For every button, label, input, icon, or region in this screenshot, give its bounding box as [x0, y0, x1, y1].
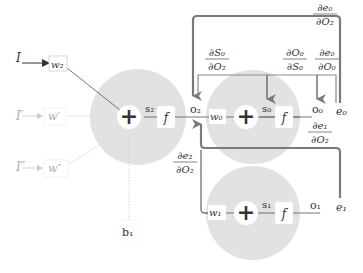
input-Idprime-label: I″	[15, 160, 26, 174]
plus-icon: +	[237, 103, 255, 129]
svg-text:∂S₀: ∂S₀	[209, 47, 225, 58]
svg-text:∂O₂: ∂O₂	[208, 61, 225, 72]
weight-w0-label: w₀	[210, 111, 223, 122]
sum-label-s2: s₂	[145, 103, 154, 114]
svg-text:∂e₁: ∂e₁	[312, 120, 327, 131]
svg-text:∂O₂: ∂O₂	[311, 134, 328, 145]
svg-text:∂O₀: ∂O₀	[286, 47, 303, 58]
svg-text:∂e₀: ∂e₀	[319, 47, 334, 58]
gradient-de0-dO0: ∂e₀ ∂O₀	[315, 47, 339, 72]
gradient-dO0-dS0: ∂O₀ ∂S₀	[283, 47, 307, 72]
svg-text:∂O₂: ∂O₂	[316, 16, 333, 27]
error-label-e0: e₀	[336, 105, 348, 118]
output-label-o0: o₀	[312, 103, 324, 116]
weight-w1-label: w₁	[209, 207, 222, 218]
wdprime-to-sum-line	[67, 145, 100, 165]
output-label-o1: o₁	[310, 199, 321, 212]
weight-wdprime-label: w″	[48, 162, 62, 175]
sum-label-s0: s₀	[262, 103, 271, 114]
svg-text:∂S₀: ∂S₀	[287, 61, 303, 72]
input-Iprime-label: I′	[15, 109, 24, 123]
plus-icon: +	[237, 199, 255, 225]
svg-text:∂O₂: ∂O₂	[176, 164, 193, 175]
weight-wprime-label: w′	[48, 110, 60, 123]
gradient-de2-dO2: ∂e₂ ∂O₂	[173, 150, 197, 175]
sum-label-s1: s₁	[262, 199, 271, 210]
svg-text:∂e₀: ∂e₀	[317, 2, 332, 13]
output-label-o2: o₂	[190, 103, 201, 116]
gradient-dS0-dO2: ∂S₀ ∂O₂	[205, 47, 229, 72]
bias-label: b₁	[122, 226, 133, 239]
error-label-e1: e₁	[336, 201, 347, 214]
weight-w2-label: w₂	[51, 59, 64, 70]
gradient-de1-dO2: ∂e₁ ∂O₂	[308, 120, 332, 145]
backprop-diagram: I w₂ I′ w′ I″ w″ b₁ + s₂ f o₂ w₀ + s₀ f …	[0, 0, 363, 273]
svg-text:∂e₂: ∂e₂	[177, 150, 192, 161]
input-I-label: I	[15, 51, 21, 65]
plus-icon: +	[120, 103, 138, 129]
gradient-de0-dO2: ∂e₀ ∂O₂	[313, 2, 337, 27]
svg-text:∂O₀: ∂O₀	[318, 61, 335, 72]
